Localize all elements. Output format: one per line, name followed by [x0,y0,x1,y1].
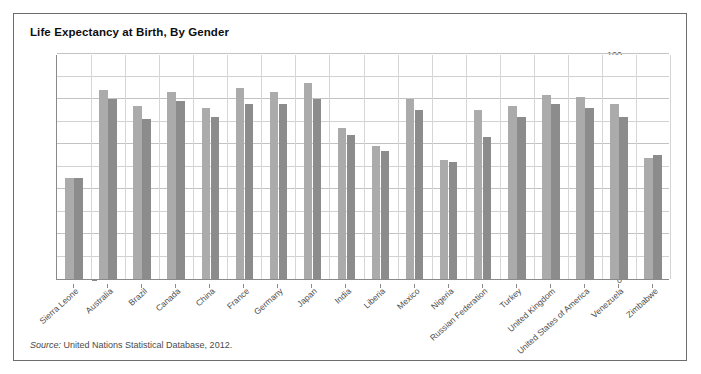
bar-male[interactable] [279,104,288,280]
figure-container: Life Expectancy at Birth, By Gender 0204… [13,13,687,361]
bar-male[interactable] [211,117,220,279]
bar-female[interactable] [372,146,381,279]
gridline-vertical [636,55,637,279]
gridline-vertical [193,55,194,279]
bar-female[interactable] [406,99,415,279]
bar-group[interactable] [99,55,117,279]
bar-group[interactable] [474,55,492,279]
x-axis-tick-label: Venezuela [589,286,625,320]
bar-male[interactable] [347,135,356,279]
bar-female[interactable] [133,106,142,279]
plot-wrapper: 020406080100 [56,55,669,280]
gridline-vertical [568,55,569,279]
gridline-vertical [398,55,399,279]
bar-female[interactable] [99,90,108,279]
bar-female[interactable] [542,95,551,280]
x-axis-tick-label: Mexico [395,286,422,311]
gridline-vertical [432,55,433,279]
bar-male[interactable] [381,151,390,279]
bar-male[interactable] [313,99,322,279]
bar-female[interactable] [167,92,176,279]
gridline-vertical [159,55,160,279]
bar-group[interactable] [236,55,254,279]
x-axis-tick-label: France [225,286,251,311]
gridline-vertical [227,55,228,279]
gridline-vertical [602,55,603,279]
bar-female[interactable] [65,178,74,279]
gridline-vertical [91,55,92,279]
bar-male[interactable] [585,108,594,279]
x-axis-tick-label: Australia [83,286,114,316]
bar-male[interactable] [483,137,492,279]
x-axis-labels: Sierra LeoneAustraliaBrazilCanadaChinaFr… [56,284,669,362]
x-axis-tick-label: Liberia [362,286,388,311]
bar-male[interactable] [517,117,526,279]
bar-male[interactable] [108,99,117,279]
bar-male[interactable] [176,101,185,279]
bar-male[interactable] [619,117,628,279]
bar-male[interactable] [449,162,458,279]
bar-male[interactable] [653,155,662,279]
gridline-vertical [125,55,126,279]
bar-male[interactable] [245,104,254,280]
chart-title: Life Expectancy at Birth, By Gender [30,26,229,38]
bar-female[interactable] [644,158,653,280]
bar-female[interactable] [508,106,517,279]
x-axis-tick-label: Canada [154,286,183,313]
source-note: Source: United Nations Statistical Datab… [30,340,232,350]
gridline-vertical [329,55,330,279]
gridline-vertical [534,55,535,279]
x-axis-tick-label: Russian Federation [428,286,489,343]
plot-area [56,55,669,280]
source-text: United Nations Statistical Database, 201… [64,340,233,350]
bar-group[interactable] [576,55,594,279]
gridline-vertical [364,55,365,279]
gridline-vertical [500,55,501,279]
x-axis-tick-label: India [333,286,353,306]
x-axis-tick-label: Germany [252,286,285,317]
gridline-vertical [466,55,467,279]
bar-group[interactable] [65,55,83,279]
bar-group[interactable] [644,55,662,279]
bar-male[interactable] [415,110,424,279]
top-remnant-text: ·········· ···· ······· ···· [420,0,504,4]
gridline-vertical [295,55,296,279]
x-axis-tick-label: Sierra Leone [38,286,81,326]
gridline-vertical [670,55,671,279]
bar-female[interactable] [236,88,245,279]
bar-female[interactable] [610,104,619,280]
gridline-horizontal-major [57,53,669,54]
bar-group[interactable] [167,55,185,279]
bar-group[interactable] [508,55,526,279]
bar-group[interactable] [406,55,424,279]
bar-female[interactable] [440,160,449,279]
bar-group[interactable] [440,55,458,279]
bar-group[interactable] [338,55,356,279]
bar-group[interactable] [133,55,151,279]
bar-male[interactable] [74,178,83,279]
y-tick-mark [92,280,97,281]
x-axis-tick-label: Brazil [126,286,148,308]
x-axis-tick-label: Japan [295,286,319,309]
page-top-remnant: ·········· ···· ······· ···· [0,0,701,8]
x-axis-tick-label: Turkey [498,286,524,311]
bar-male[interactable] [142,119,151,279]
bar-group[interactable] [202,55,220,279]
bar-group[interactable] [610,55,628,279]
bar-female[interactable] [304,83,313,279]
source-prefix: Source: [30,340,61,350]
gridline-vertical [261,55,262,279]
bar-female[interactable] [576,97,585,279]
bar-female[interactable] [474,110,483,279]
bar-group[interactable] [372,55,390,279]
x-axis-tick-label: Zimbabwe [624,286,660,320]
bar-group[interactable] [304,55,322,279]
x-axis-tick-label: Nigeria [429,286,456,311]
bar-group[interactable] [542,55,560,279]
x-axis-tick-label: China [194,286,217,308]
bar-female[interactable] [270,92,279,279]
bar-group[interactable] [270,55,288,279]
bar-female[interactable] [338,128,347,279]
bar-male[interactable] [551,104,560,280]
bar-female[interactable] [202,108,211,279]
